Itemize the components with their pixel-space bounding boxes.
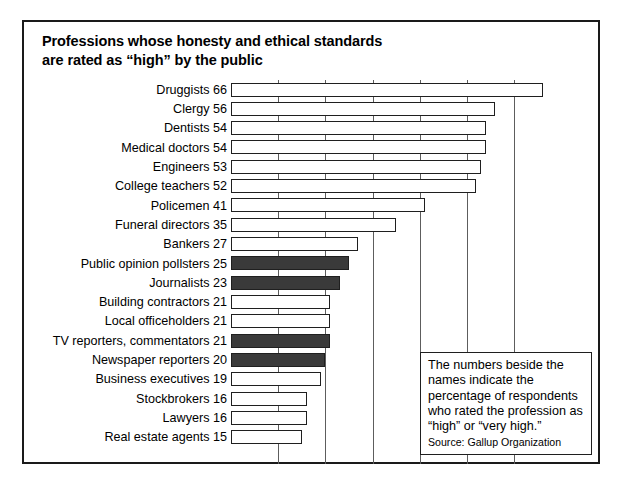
bar-label: Engineers 53 [153,160,227,174]
bar-rect[interactable] [231,218,396,232]
bar-rect[interactable] [231,392,307,406]
bar-label: Real estate agents 15 [104,430,227,444]
bar-label: Clergy 56 [173,102,227,116]
bar-rect[interactable] [231,237,358,251]
bar-rect[interactable] [231,411,307,425]
bar-rect[interactable] [231,140,486,154]
bar-rect[interactable] [231,430,302,444]
bar-label: Business executives 19 [95,372,227,386]
bar-row[interactable]: Building contractors 21 [24,293,598,312]
bar-label: Policemen 41 [151,199,227,213]
bar-rect[interactable] [231,353,325,367]
bar-rect[interactable] [231,372,321,386]
bar-label: Public opinion pollsters 25 [81,257,227,271]
bar-label: College teachers 52 [115,179,227,193]
bar-rect[interactable] [231,198,425,212]
bar-row[interactable]: Local officeholders 21 [24,312,598,331]
chart-frame: Professions whose honesty and ethical st… [22,20,600,464]
bar-label: Local officeholders 21 [105,314,227,328]
bar-row[interactable]: Public opinion pollsters 25 [24,254,598,273]
bar-rect[interactable] [231,276,340,290]
bar-label: Bankers 27 [163,237,227,251]
bar-row[interactable]: Funeral directors 35 [24,215,598,234]
bar-rect[interactable] [231,314,330,328]
bar-row[interactable]: Policemen 41 [24,196,598,215]
bar-row[interactable]: College teachers 52 [24,177,598,196]
chart-title-line-2: are rated as “high” by the public [42,51,512,70]
bar-label: Newspaper reporters 20 [92,353,227,367]
bar-rect[interactable] [231,295,330,309]
bar-label: TV reporters, commentators 21 [53,334,227,348]
bar-row[interactable]: Journalists 23 [24,273,598,292]
bar-label: Dentists 54 [164,121,227,135]
bar-row[interactable]: TV reporters, commentators 21 [24,331,598,350]
bar-label: Building contractors 21 [99,295,227,309]
bar-rect[interactable] [231,179,476,193]
bar-label: Lawyers 16 [163,411,227,425]
bar-rect[interactable] [231,160,481,174]
bar-row[interactable]: Druggists 66 [24,80,598,99]
bar-label: Stockbrokers 16 [136,392,227,406]
bar-rect[interactable] [231,121,486,135]
chart-title-line-1: Professions whose honesty and ethical st… [42,32,512,51]
bar-rect[interactable] [231,334,330,348]
chart-title: Professions whose honesty and ethical st… [42,32,512,70]
bar-label: Medical doctors 54 [121,141,227,155]
bar-row[interactable]: Clergy 56 [24,99,598,118]
bar-rect[interactable] [231,102,495,116]
annotation-source: Source: Gallup Organization [428,436,584,449]
bar-rect[interactable] [231,83,543,97]
bar-row[interactable]: Bankers 27 [24,235,598,254]
annotation-box: The numbers beside the names indicate th… [420,352,592,455]
bar-label: Journalists 23 [149,276,227,290]
bar-row[interactable]: Engineers 53 [24,157,598,176]
annotation-text: The numbers beside the names indicate th… [428,358,584,435]
bar-row[interactable]: Dentists 54 [24,119,598,138]
bar-row[interactable]: Medical doctors 54 [24,138,598,157]
bar-rect[interactable] [231,256,349,270]
bar-label: Druggists 66 [156,83,227,97]
bar-label: Funeral directors 35 [115,218,227,232]
